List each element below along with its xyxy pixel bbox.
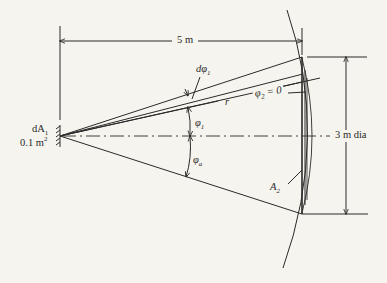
r-label: r — [225, 97, 229, 108]
source-area-name: dA — [32, 123, 45, 134]
phi1-label: φ1 — [195, 118, 204, 131]
sphere-arc — [283, 10, 308, 268]
arc-phi1 — [188, 107, 190, 136]
phi1-sub: 1 — [201, 123, 205, 131]
arc-phi-a — [186, 136, 191, 177]
phi2-leader — [288, 92, 306, 93]
phi2-rest: = 0 — [263, 84, 282, 97]
dphi1-leader — [192, 77, 200, 99]
a2-label: A2 — [270, 182, 280, 195]
source-area-value-text: 0.1 m — [20, 137, 44, 148]
diameter-label: 3 m dia — [333, 130, 369, 141]
distance-label: 5 m — [175, 35, 195, 46]
dphi1-text: dφ — [196, 63, 207, 74]
dphi1-sub: 1 — [207, 69, 211, 77]
wall-hatching — [56, 125, 60, 147]
ray-dphi1-upper — [60, 74, 303, 136]
ray-bottom-edge — [60, 136, 302, 214]
phi-a-label: φa — [193, 155, 202, 168]
phi-a-sub: a — [199, 160, 203, 168]
a2-sub: 2 — [276, 187, 280, 195]
source-area-value-sup: 2 — [44, 135, 48, 143]
source-area-value: 0.1 m2 — [20, 136, 47, 148]
dphi1-label: dφ1 — [196, 64, 211, 77]
a2-leader — [288, 170, 302, 184]
